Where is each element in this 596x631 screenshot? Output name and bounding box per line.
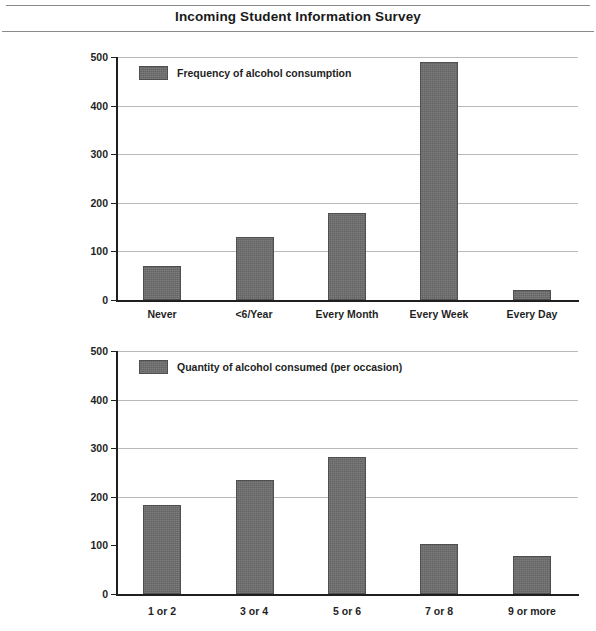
bar [143, 505, 181, 594]
chart-legend: Frequency of alcohol consumption [139, 66, 351, 80]
gridline [116, 203, 578, 204]
x-axis-tick-label: 7 or 8 [393, 606, 485, 617]
y-axis-tick-label: 400 [70, 395, 108, 406]
y-axis-tick-mark [111, 251, 116, 252]
y-axis-tick-mark [111, 497, 116, 498]
y-axis-tick-label: 100 [70, 246, 108, 257]
x-axis-tick-label: Every Week [393, 309, 485, 320]
gridline [116, 448, 578, 449]
y-axis-tick-label: 0 [70, 589, 108, 600]
gridline [116, 57, 578, 58]
x-axis-line [116, 300, 579, 302]
y-axis-line [116, 351, 118, 595]
y-axis-tick-label: 300 [70, 149, 108, 160]
y-axis-tick-mark [111, 351, 116, 352]
page-title: Incoming Student Information Survey [0, 9, 596, 24]
y-axis-tick-mark [111, 400, 116, 401]
y-axis-tick-label: 400 [70, 101, 108, 112]
y-axis-line [116, 57, 118, 301]
x-axis-tick-label: 5 or 6 [301, 606, 393, 617]
legend-label: Quantity of alcohol consumed (per occasi… [177, 361, 402, 373]
y-axis-tick-mark [111, 300, 116, 301]
bar [328, 457, 366, 594]
x-axis-tick-label: Never [116, 309, 208, 320]
y-axis-tick-mark [111, 545, 116, 546]
bar [328, 213, 366, 300]
y-axis-tick-label: 200 [70, 492, 108, 503]
bar [420, 62, 458, 300]
x-axis-tick-label: 9 or more [486, 606, 578, 617]
chart-quantity-of-alcohol-consumed: 01002003004005001 or 23 or 45 or 67 or 8… [0, 341, 596, 626]
y-axis-tick-mark [111, 106, 116, 107]
gridline [116, 400, 578, 401]
y-axis-tick-mark [111, 448, 116, 449]
bar [513, 290, 551, 300]
header-rule-bottom [2, 31, 594, 32]
x-axis-line [116, 594, 579, 596]
header-rule-top [6, 5, 590, 6]
legend-label: Frequency of alcohol consumption [177, 67, 351, 79]
bar [143, 266, 181, 300]
gridline [116, 106, 578, 107]
y-axis-tick-label: 500 [70, 346, 108, 357]
chart-frequency-of-alcohol-consumption: 0100200300400500Never<6/YearEvery MonthE… [0, 46, 596, 321]
gridline [116, 154, 578, 155]
gridline [116, 351, 578, 352]
y-axis-tick-label: 100 [70, 540, 108, 551]
y-axis-tick-mark [111, 57, 116, 58]
y-axis-tick-label: 200 [70, 198, 108, 209]
y-axis-tick-label: 300 [70, 443, 108, 454]
y-axis-tick-mark [111, 154, 116, 155]
x-axis-tick-label: 1 or 2 [116, 606, 208, 617]
y-axis-tick-label: 500 [70, 52, 108, 63]
y-axis-tick-mark [111, 594, 116, 595]
bar [236, 480, 274, 594]
y-axis-tick-mark [111, 203, 116, 204]
y-axis-tick-label: 0 [70, 295, 108, 306]
bar [236, 237, 274, 300]
x-axis-tick-label: 3 or 4 [208, 606, 300, 617]
x-axis-tick-label: Every Month [301, 309, 393, 320]
legend-color-swatch [139, 360, 168, 374]
legend-color-swatch [139, 66, 168, 80]
chart-legend: Quantity of alcohol consumed (per occasi… [139, 360, 402, 374]
bar [513, 556, 551, 594]
x-axis-tick-label: <6/Year [208, 309, 300, 320]
bar [420, 544, 458, 594]
x-axis-tick-label: Every Day [486, 309, 578, 320]
